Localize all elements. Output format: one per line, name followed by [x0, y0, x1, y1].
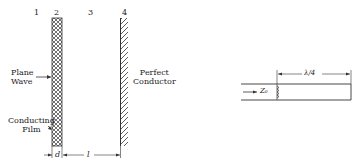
dimension-l-label: l [87, 150, 90, 159]
region-label-1: 1 [34, 8, 39, 17]
region-label-4: 4 [122, 8, 127, 17]
region-label-2: 2 [54, 8, 59, 17]
region-label-3: 3 [88, 8, 93, 17]
shunt-resistor-icon [277, 84, 279, 100]
quarter-wave-label: λ/4 [304, 69, 315, 78]
dimension-d-label: d [55, 150, 60, 159]
plane-wave-arrow [36, 75, 51, 79]
impedance-label: Z₀ [260, 87, 268, 96]
perfect-conductor-label: Perfect Conductor [133, 68, 176, 86]
transmission-line [241, 84, 351, 100]
diagram-canvas [0, 0, 360, 168]
dimension-l [63, 146, 121, 158]
conducting-film-label: Conducting Film [8, 116, 55, 134]
input-arrow [243, 91, 257, 94]
perfect-conductor-wall [121, 18, 129, 146]
plane-wave-label: Plane Wave [11, 68, 34, 86]
